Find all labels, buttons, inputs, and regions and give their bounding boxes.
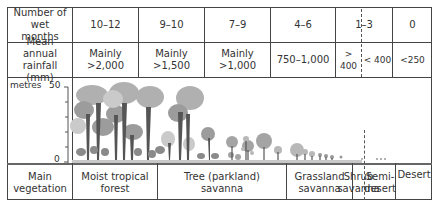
vegetation-cell: Shrub savanna <box>353 165 364 200</box>
vegetation-cell: Desert <box>396 165 432 200</box>
vegetation-cell: Tree (parkland) savanna <box>158 165 286 200</box>
vegetation-cell: Moist tropical forest <box>73 165 157 200</box>
vegetation-header: Main vegetation <box>8 165 72 200</box>
vegetation-cell: Semi-desert <box>365 165 395 200</box>
